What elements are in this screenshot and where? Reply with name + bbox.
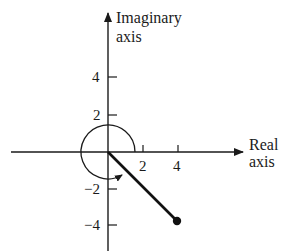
x-axis-label-line2: axis (249, 153, 275, 170)
y-tick-label-neg4: −4 (84, 217, 100, 233)
y-tick-label-neg2: −2 (84, 181, 100, 197)
y-tick-label-4: 4 (92, 69, 100, 85)
complex-point (173, 217, 181, 225)
y-tick-label-2: 2 (93, 107, 101, 123)
complex-plane-diagram: Imaginary axis Real axis 2 4 4 2 −2 −4 (0, 0, 282, 251)
y-axis-label-line1: Imaginary (116, 9, 182, 27)
y-axis-label-line2: axis (116, 28, 142, 45)
x-tick-label-2: 2 (139, 158, 147, 174)
x-axis-label-line1: Real (249, 136, 279, 153)
x-tick-label-4: 4 (173, 158, 181, 174)
